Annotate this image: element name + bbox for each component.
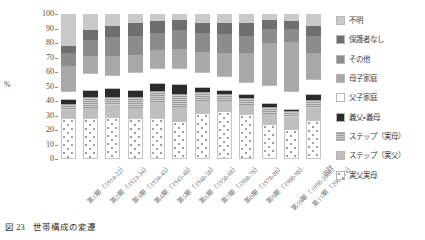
legend-item[interactable]: 父子家庭 (336, 88, 424, 107)
y-tick-label: 10 (46, 141, 54, 149)
bar-segment (83, 108, 98, 118)
legend-item[interactable]: その他 (336, 50, 424, 69)
bar-segment (150, 33, 165, 50)
bar-segment (61, 100, 76, 104)
bar-segment (262, 14, 277, 20)
bar-segment (172, 14, 187, 20)
bar-segment (105, 75, 120, 90)
legend-swatch (336, 74, 345, 83)
bar-segment (306, 79, 321, 95)
bar-segment (128, 72, 143, 91)
bar-stack (262, 14, 277, 159)
bar-column[interactable] (262, 14, 277, 159)
bar-segment (284, 111, 299, 117)
bar-segment (306, 53, 321, 79)
bar-segment (306, 95, 321, 99)
bar-column[interactable] (217, 14, 232, 159)
bar-segment (83, 73, 98, 90)
bar-segment (61, 104, 76, 110)
bar-segment (83, 56, 98, 73)
bar-segment (83, 40, 98, 56)
bar-segment (239, 98, 254, 105)
bar-segment (128, 23, 143, 36)
bar-segment (284, 129, 299, 159)
bar-segment (217, 101, 232, 111)
y-tick-label: 0 (50, 155, 54, 163)
bar-segment (150, 21, 165, 33)
bar-segment (239, 114, 254, 159)
bar-segment (217, 34, 232, 53)
bar-segment (150, 84, 165, 91)
bar-column[interactable] (83, 14, 98, 159)
bar-segment (306, 14, 321, 26)
bar-stack (239, 14, 254, 159)
bar-segment (128, 118, 143, 159)
bar-segment (239, 23, 254, 36)
y-tick-label: 90 (46, 25, 54, 33)
bar-segment (172, 94, 187, 107)
bar-segment (150, 68, 165, 84)
bar-segment (61, 46, 76, 53)
bar-segment (195, 23, 210, 33)
x-tick-label: 第6期（1958-68） (198, 163, 240, 205)
bar-segment (306, 108, 321, 120)
bar-segment (195, 88, 210, 92)
legend-swatch (336, 35, 345, 44)
bar-stack (150, 14, 165, 159)
bar-stack (217, 14, 232, 159)
bar-segment (61, 66, 76, 91)
legend-swatch (336, 113, 345, 122)
caption-title: 世帯構成の変遷 (33, 222, 96, 232)
bar-column[interactable] (195, 14, 210, 159)
bar-column[interactable] (105, 14, 120, 159)
bar-segment (195, 92, 210, 101)
bar-segment (83, 14, 98, 30)
bar-column[interactable] (284, 14, 299, 159)
legend-label: 父子家庭 (349, 93, 377, 102)
bar-segment (150, 118, 165, 159)
bar-segment (284, 91, 299, 110)
bar-stack (128, 14, 143, 159)
bar-segment (105, 97, 120, 106)
bar-segment (262, 107, 277, 114)
legend-item[interactable]: 実父実母 (336, 165, 424, 184)
legend-item[interactable]: 母子家庭 (336, 69, 424, 88)
bar-segment (217, 76, 232, 91)
bar-segment (150, 50, 165, 67)
x-tick-label: 第4期（1945-48） (153, 163, 195, 205)
legend-swatch (336, 93, 345, 102)
bar-column[interactable] (128, 14, 143, 159)
bar-segment (239, 14, 254, 23)
y-tick-label: 50 (46, 83, 54, 91)
legend-item[interactable]: ステップ（実母） (336, 127, 424, 146)
bar-segment (284, 42, 299, 91)
bar-column[interactable] (172, 14, 187, 159)
bar-segment (239, 36, 254, 53)
legend-swatch (336, 132, 345, 141)
legend-item[interactable]: 保護者なし (336, 30, 424, 49)
legend-label: 保護者なし (349, 35, 384, 44)
bar-segment (239, 105, 254, 114)
x-axis: 第1期（1914-22）第2期（1923-34）第3期（1934-45）第4期（… (57, 160, 325, 220)
bar-segment (83, 97, 98, 109)
legend-swatch (336, 16, 345, 25)
bar-column[interactable] (150, 14, 165, 159)
legend-item[interactable]: 義父・義母 (336, 107, 424, 126)
x-tick-label: 第8期（1978-88） (242, 163, 284, 205)
bar-segment (105, 56, 120, 75)
bar-segment (195, 52, 210, 72)
legend-label: ステップ（実母） (349, 132, 405, 141)
legend: 不明保護者なしその他母子家庭父子家庭義父・義母ステップ（実母）ステップ（実父）実… (336, 11, 424, 185)
legend-item[interactable]: 不明 (336, 11, 424, 30)
bar-segment (217, 91, 232, 94)
bar-segment (195, 33, 210, 52)
bar-stack (61, 14, 76, 159)
bar-segment (172, 49, 187, 68)
legend-item[interactable]: ステップ（実父） (336, 146, 424, 165)
bar-segment (195, 14, 210, 23)
bar-column[interactable] (61, 14, 76, 159)
x-tick-label: 第1期（1914-22） (86, 163, 128, 205)
bar-column[interactable] (306, 14, 321, 159)
legend-label: ステップ（実父） (349, 151, 405, 160)
bar-column[interactable] (239, 14, 254, 159)
